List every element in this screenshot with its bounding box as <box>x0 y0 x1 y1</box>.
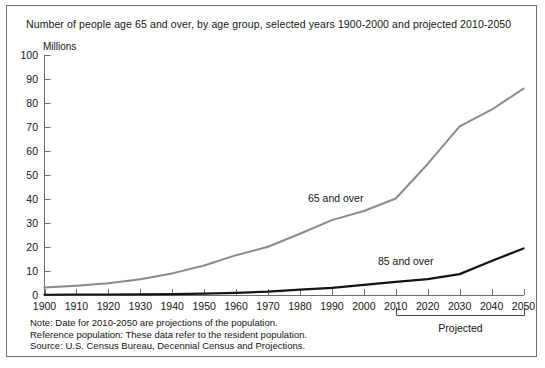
projected-label: Projected <box>438 322 482 334</box>
figure-container: Number of people age 65 and over, by age… <box>0 0 545 368</box>
axes-group <box>45 55 525 296</box>
y-tick-label-90: 90 <box>8 73 38 85</box>
series-line-85-and-over <box>45 248 524 294</box>
y-tick-label-40: 40 <box>8 193 38 205</box>
note-line-3: Source: U.S. Census Bureau, Decennial Ce… <box>30 340 307 352</box>
y-tick-label-100: 100 <box>8 49 38 61</box>
figure-notes: Note: Date for 2010-2050 are projections… <box>30 317 307 352</box>
y-tick-label-80: 80 <box>8 97 38 109</box>
x-tick-label-2050: 2050 <box>504 300 544 312</box>
y-tick-label-10: 10 <box>8 265 38 277</box>
y-axis-ticks <box>45 56 51 296</box>
note-line-2: Reference population: These data refer t… <box>30 329 307 341</box>
y-tick-label-20: 20 <box>8 241 38 253</box>
y-tick-label-50: 50 <box>8 169 38 181</box>
y-tick-label-70: 70 <box>8 121 38 133</box>
y-tick-label-60: 60 <box>8 145 38 157</box>
data-series-group <box>45 89 524 295</box>
series-line-65-and-over <box>45 89 524 288</box>
series-label-65-and-over: 65 and over <box>308 192 363 204</box>
note-line-1: Note: Date for 2010-2050 are projections… <box>30 317 307 329</box>
chart-plot-area <box>0 0 545 368</box>
series-label-85-and-over: 85 and over <box>378 255 433 267</box>
y-tick-label-30: 30 <box>8 217 38 229</box>
